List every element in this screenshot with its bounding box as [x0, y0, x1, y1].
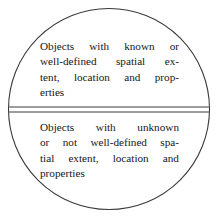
upper-text-line-1: Objects with known or	[40, 39, 179, 54]
word: Objects	[40, 39, 74, 54]
lower-half-text-block: Objects with unknown or not well-defined…	[40, 120, 179, 181]
upper-half-text-block: Objects with known or well-defined spati…	[40, 39, 179, 100]
word: or	[170, 39, 179, 54]
word: with	[89, 39, 109, 54]
lower-text-line-1: Objects with unknown	[40, 120, 179, 135]
word: and	[124, 70, 140, 85]
word: ex-	[165, 54, 179, 69]
word: well-defined	[90, 135, 147, 150]
word: prop-	[155, 70, 179, 85]
word: location	[113, 151, 149, 166]
word: known	[124, 39, 154, 54]
word: with	[96, 120, 116, 135]
word: or	[40, 135, 49, 150]
word: location	[74, 70, 110, 85]
word: spatial	[116, 54, 145, 69]
word: extent,	[68, 151, 98, 166]
word: not	[63, 135, 77, 150]
split-circle-diagram: Objects with known or well-defined spati…	[0, 0, 218, 218]
word: well-defined	[40, 54, 97, 69]
lower-text-line-4: properties	[40, 166, 179, 181]
word: and	[163, 151, 179, 166]
upper-text-line-3: tent, location and prop-	[40, 70, 179, 85]
word: spa-	[160, 135, 179, 150]
lower-text-line-2: or not well-defined spa-	[40, 135, 179, 150]
circle-outline-svg	[0, 0, 218, 218]
lower-text-line-3: tial extent, location and	[40, 151, 179, 166]
word: Objects	[40, 120, 74, 135]
word: tent,	[40, 70, 60, 85]
word: unknown	[137, 120, 179, 135]
word: tial	[40, 151, 54, 166]
upper-text-line-2: well-defined spatial ex-	[40, 54, 179, 69]
upper-text-line-4: erties	[40, 85, 179, 100]
